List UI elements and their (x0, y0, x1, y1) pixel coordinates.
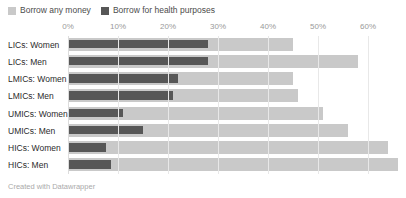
bar-borrow-for-health-purposes[interactable] (68, 57, 208, 66)
gridline (218, 36, 219, 174)
plot-area: 0%10%20%30%40%50%60% LICs: WomenLICs: Me… (0, 22, 406, 174)
x-axis-tick-label: 10% (110, 22, 126, 32)
bar-chart: Borrow any money Borrow for health purpo… (0, 0, 406, 198)
category-label: LICs: Women (8, 40, 59, 50)
legend-item-borrow-for-health-purposes[interactable]: Borrow for health purposes (101, 6, 215, 15)
bar-borrow-for-health-purposes[interactable] (68, 109, 123, 118)
bar-row[interactable]: LMICs: Women (0, 71, 406, 88)
legend-item-borrow-any-money[interactable]: Borrow any money (8, 6, 91, 15)
x-axis-tick-label: 60% (360, 22, 376, 32)
bar-row[interactable]: LICs: Women (0, 36, 406, 53)
bar-borrow-any-money[interactable] (68, 141, 388, 154)
gridline (368, 36, 369, 174)
x-axis-tick-label: 0% (62, 22, 74, 32)
gridline (68, 36, 69, 174)
category-label: UMICs: Women (8, 109, 68, 119)
x-axis: 0%10%20%30%40%50%60% (0, 22, 406, 36)
bar-row[interactable]: UMICs: Men (0, 122, 406, 139)
bar-borrow-for-health-purposes[interactable] (68, 160, 111, 169)
bar-row[interactable]: LICs: Men (0, 53, 406, 70)
bar-row[interactable]: LMICs: Men (0, 88, 406, 105)
category-label: UMICs: Men (8, 126, 55, 136)
bar-borrow-for-health-purposes[interactable] (68, 126, 143, 135)
chart-credit: Created with Datawrapper (8, 182, 95, 191)
category-label: LICs: Men (8, 57, 47, 67)
category-label: HICs: Men (8, 160, 48, 170)
bar-row[interactable]: UMICs: Women (0, 105, 406, 122)
x-axis-tick-label: 30% (210, 22, 226, 32)
gridline (118, 36, 119, 174)
gridline (318, 36, 319, 174)
legend-label: Borrow for health purposes (113, 6, 215, 15)
bar-borrow-for-health-purposes[interactable] (68, 143, 106, 152)
category-label: HICs: Women (8, 143, 61, 153)
category-label: LMICs: Women (8, 74, 66, 84)
category-label: LMICs: Men (8, 91, 54, 101)
legend-label: Borrow any money (20, 6, 91, 15)
bar-rows: LICs: WomenLICs: MenLMICs: WomenLMICs: M… (0, 36, 406, 174)
gridline (268, 36, 269, 174)
bar-borrow-for-health-purposes[interactable] (68, 74, 178, 83)
chart-legend: Borrow any money Borrow for health purpo… (8, 5, 215, 16)
bar-borrow-for-health-purposes[interactable] (68, 40, 208, 49)
square-swatch-icon (101, 7, 109, 15)
bar-borrow-for-health-purposes[interactable] (68, 91, 173, 100)
x-axis-tick-label: 40% (260, 22, 276, 32)
x-axis-tick-label: 20% (160, 22, 176, 32)
gridline (168, 36, 169, 174)
bar-row[interactable]: HICs: Men (0, 157, 406, 174)
square-swatch-icon (8, 7, 16, 15)
bar-row[interactable]: HICs: Women (0, 140, 406, 157)
x-axis-tick-label: 50% (310, 22, 326, 32)
